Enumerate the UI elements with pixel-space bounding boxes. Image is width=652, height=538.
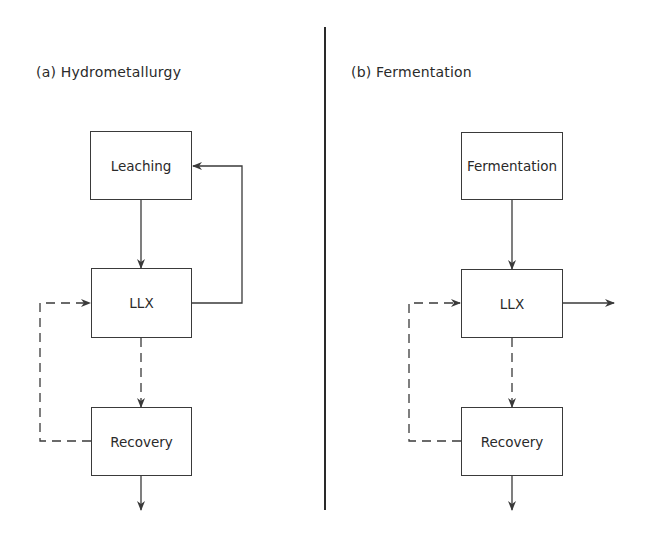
- box-label: LLX: [129, 295, 153, 311]
- panel-a-title: (a) Hydrometallurgy: [36, 64, 181, 80]
- arrow-llx-recycle-to-leaching: [192, 166, 242, 303]
- box-label: Leaching: [111, 158, 172, 174]
- box-label: Fermentation: [467, 158, 557, 174]
- box-llx-b: LLX: [461, 269, 563, 338]
- arrow-recovery-to-llx-dashed-b: [409, 303, 461, 441]
- arrow-recovery-to-llx-dashed: [40, 303, 91, 441]
- box-llx-a: LLX: [91, 268, 192, 338]
- panel-b-title: (b) Fermentation: [351, 64, 472, 80]
- box-recovery-a: Recovery: [91, 407, 192, 476]
- box-label: Recovery: [481, 434, 544, 450]
- box-label: Recovery: [110, 434, 173, 450]
- box-fermentation: Fermentation: [461, 132, 563, 200]
- box-label: LLX: [500, 296, 524, 312]
- box-recovery-b: Recovery: [461, 407, 563, 476]
- box-leaching: Leaching: [90, 131, 192, 200]
- panel-divider: [324, 27, 326, 510]
